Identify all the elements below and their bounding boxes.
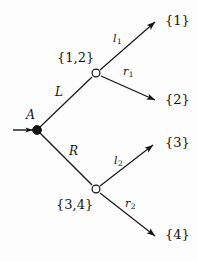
edge-label-L: L <box>55 86 63 98</box>
edge-label-r1-subscript: 1 <box>129 70 134 79</box>
edge-root-to-upper-node <box>40 77 92 127</box>
decision-tree-figure: A {1,2} {3,4} {1} {2} {3} {4} L R l1 r1 … <box>0 0 197 262</box>
edge-label-R: R <box>69 145 78 157</box>
outcome-label-1: {1} <box>165 14 190 27</box>
outcome-label-2: {2} <box>165 93 190 106</box>
edge-label-r2-base: r <box>125 197 130 210</box>
edge-label-r1: r1 <box>123 66 133 77</box>
outcome-label-3: {3} <box>165 136 190 149</box>
edge-root-to-lower-node <box>40 133 92 185</box>
edge-upper-node-to-outcome-1 <box>100 22 155 70</box>
node-root-label: A <box>26 109 35 122</box>
edge-label-l2-subscript: 2 <box>118 159 123 168</box>
tree-graph-canvas <box>0 0 197 262</box>
edge-label-r1-base: r <box>123 65 128 78</box>
node-lower-decision-label: {3,4} <box>56 198 93 211</box>
edge-label-l2-base: l <box>114 154 118 167</box>
edge-label-r2-subscript: 2 <box>131 202 136 211</box>
edge-label-r2: r2 <box>125 198 135 209</box>
edge-lower-node-to-outcome-3 <box>100 145 153 186</box>
node-upper-decision <box>92 69 100 77</box>
outcome-label-4: {4} <box>165 228 190 241</box>
edge-label-l2: l2 <box>114 155 122 166</box>
edge-upper-node-to-outcome-2 <box>101 76 155 100</box>
edge-label-l1: l1 <box>113 33 121 44</box>
node-upper-decision-label: {1,2} <box>57 51 94 64</box>
node-root <box>33 126 42 135</box>
edge-label-l1-base: l <box>113 32 117 45</box>
node-lower-decision <box>92 185 100 193</box>
edge-label-l1-subscript: 1 <box>117 37 122 46</box>
